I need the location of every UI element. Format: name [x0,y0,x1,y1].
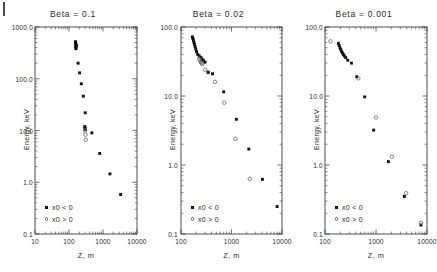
data-point-filled [276,205,279,208]
filled-square-icon [331,206,342,209]
y-tick-label: 10.0 [164,93,178,100]
panel-beta-0.001: Beta = 0.001 1001000100000.11.010.0100.0… [291,0,437,272]
data-point-open [329,40,333,44]
x-tick-label: 100 [319,238,331,245]
legend-label: x0 < 0 [342,204,363,211]
legend-item: x0 > 0 [331,214,363,224]
y-tick-label: 100.0 [15,75,33,82]
open-circle-icon [41,217,52,220]
x-tick-label: 100 [175,238,187,245]
figure-container: Beta = 0.1 101001000100000.11.010.0100.0… [0,0,437,272]
y-tick-label: 1.0 [23,179,33,186]
data-point-filled [403,195,406,198]
data-point-filled [78,71,81,74]
y-tick-label: 0.1 [313,231,323,238]
legend-label: x0 > 0 [198,216,219,223]
legend-marker-glyph [45,217,48,220]
y-tick-label: 10.0 [309,93,323,100]
legend-label: x0 < 0 [52,204,73,211]
panel-beta-0.1: Beta = 0.1 101001000100000.11.010.0100.0… [0,0,146,272]
legend-item: x0 < 0 [187,202,219,212]
x-tick-label: 1000 [368,238,383,245]
legend-marker-glyph [45,206,48,209]
legend-item: x0 > 0 [41,214,73,224]
data-point-open [390,155,394,159]
x-tick-label: 100 [63,238,75,245]
data-point-filled [247,148,250,151]
data-point-open [234,137,238,141]
data-point-open [248,177,252,181]
data-point-filled [98,152,101,155]
legend: x0 < 0x0 > 0 [187,202,219,226]
data-point-filled [363,95,366,98]
data-point-open [374,116,378,120]
data-point-filled [119,193,122,196]
legend-label: x0 < 0 [198,204,219,211]
x-tick-label: 10 [31,238,39,245]
data-point-open [404,191,408,195]
legend: x0 < 0x0 > 0 [41,202,73,226]
y-tick-label: 1000.0 [12,24,33,31]
data-point-open [357,77,361,81]
data-point-filled [80,82,83,85]
data-point-filled [346,59,349,62]
data-point-filled [211,72,214,75]
legend-marker-glyph [335,206,338,209]
data-point-filled [77,62,80,65]
x-tick-label: 10000 [127,238,146,245]
data-point-open [84,138,88,142]
data-point-open [213,80,217,84]
legend-item: x0 > 0 [187,214,219,224]
legend-marker-glyph [191,206,194,209]
filled-square-icon [187,206,198,209]
x-axis-title: Z, m [78,251,94,260]
data-point-filled [350,62,353,65]
legend-marker-glyph [191,217,194,220]
data-point-filled [90,131,93,134]
data-point-filled [74,41,77,44]
legend: x0 < 0x0 > 0 [331,202,363,226]
x-tick-label: 1000 [95,238,110,245]
data-point-filled [261,178,264,181]
x-axis-title: Z, m [223,251,239,260]
legend-item: x0 < 0 [41,202,73,212]
y-axis-title: Energy, keV [23,107,30,151]
legend-item: x0 < 0 [331,202,363,212]
y-axis-title: Energy, keV [169,107,176,151]
data-point-filled [75,44,78,47]
x-tick-label: 10000 [417,238,436,245]
legend-label: x0 > 0 [342,216,363,223]
y-axis-title: Energy, keV [313,107,320,151]
open-circle-icon [187,217,198,220]
y-tick-label: 0.1 [23,231,33,238]
data-point-open [223,101,227,105]
data-point-filled [108,172,111,175]
data-point-filled [344,56,347,59]
open-circle-icon [331,217,342,220]
y-tick-label: 100.0 [305,24,323,31]
y-tick-label: 0.1 [168,231,178,238]
data-point-filled [194,48,197,51]
data-point-filled [74,47,77,50]
y-tick-label: 1.0 [313,162,323,169]
legend-marker-glyph [335,217,338,220]
filled-square-icon [41,206,52,209]
x-axis-title: Z, m [368,251,384,260]
data-point-open [84,133,88,137]
panel-beta-0.02: Beta = 0.02 1001000100000.11.010.0100.0Z… [146,0,291,272]
data-point-filled [235,118,238,121]
data-point-filled [222,90,225,93]
legend-label: x0 > 0 [52,216,73,223]
data-point-filled [372,129,375,132]
data-point-filled [84,111,87,114]
data-point-filled [195,50,198,53]
x-tick-label: 1000 [224,238,239,245]
x-tick-label: 10000 [272,238,291,245]
y-tick-label: 100.0 [160,24,178,31]
data-point-filled [387,160,390,163]
data-point-filled [82,95,85,98]
y-tick-label: 1.0 [168,162,178,169]
